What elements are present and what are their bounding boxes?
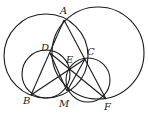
point-label-d: D	[40, 42, 49, 53]
point-label-b: B	[22, 95, 30, 106]
diagram-canvas: ADCEBMF	[0, 0, 148, 120]
point-label-m: M	[58, 98, 70, 109]
circle-AF	[52, 7, 144, 99]
point-label-c: C	[87, 46, 95, 57]
point-label-a: A	[59, 5, 67, 16]
point-label-e: E	[65, 54, 74, 65]
point-label-f: F	[103, 101, 112, 112]
geometry-figure: ADCEBMF	[0, 0, 148, 120]
